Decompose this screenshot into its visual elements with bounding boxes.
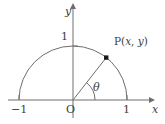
radius-segment-to-p xyxy=(73,58,106,101)
x-axis-label: x xyxy=(152,104,158,115)
origin-label: O xyxy=(66,104,75,115)
y-axis-label: y xyxy=(65,6,71,17)
point-p-label: P(x, y) xyxy=(114,36,148,47)
tick-label-x-negative-one: −1 xyxy=(11,104,27,115)
point-p-comma: , xyxy=(131,35,134,47)
tick-label-x-one: 1 xyxy=(123,104,130,115)
theta-angle-label: θ xyxy=(93,82,100,93)
point-p-marker xyxy=(104,55,108,59)
semicircle-figure: y x 1 −1 1 O θ P(x, y) xyxy=(0,0,165,124)
point-p-close-paren: ) xyxy=(144,35,148,47)
tick-label-y-one: 1 xyxy=(61,31,68,42)
